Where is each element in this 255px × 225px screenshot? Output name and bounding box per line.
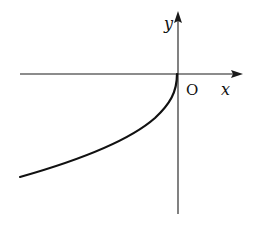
function-curve	[20, 74, 177, 177]
y-axis-label: y	[163, 14, 174, 33]
graph-canvas: y x O	[0, 0, 255, 225]
origin-label: O	[186, 81, 198, 99]
x-axis-label: x	[221, 80, 230, 99]
function-graph-figure: y x O	[0, 0, 255, 225]
